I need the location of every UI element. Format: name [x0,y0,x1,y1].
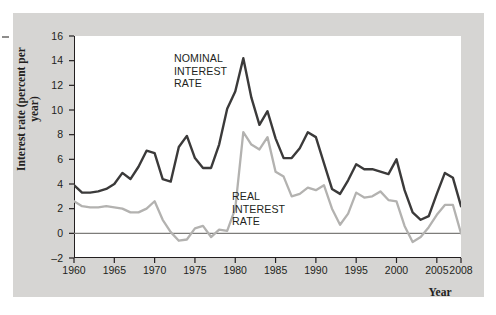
y-tick-label: 0 [37,228,63,238]
x-tick-label: 1985 [254,265,298,276]
y-tick-label: 12 [37,80,63,90]
y-tick-label: –2 [37,253,63,263]
y-tick-label: 8 [37,129,63,139]
chart-figure: Interest rate (percent per year) Year NO… [0,0,496,315]
x-tick-label: 1995 [334,265,378,276]
x-tick-label: 2008 [439,265,483,276]
y-tick-label: 4 [37,179,63,189]
annotation-real-interest-rate: REAL INTEREST RATE [232,190,285,228]
x-tick-label: 1975 [173,265,217,276]
x-tick-label: 1965 [92,265,136,276]
y-tick-label: 6 [37,154,63,164]
y-tick-label: 2 [37,203,63,213]
y-tick-label: 14 [37,55,63,65]
x-axis-title: Year [417,286,463,298]
y-tick-label: 10 [37,105,63,115]
registration-mark-icon [2,36,9,38]
x-tick-label: 1970 [133,265,177,276]
annotation-nominal-interest-rate: NOMINAL INTEREST RATE [174,52,227,90]
x-tick-label: 1960 [52,265,96,276]
x-tick-label: 1990 [294,265,338,276]
x-tick-label: 2000 [375,265,419,276]
x-tick-label: 1980 [213,265,257,276]
y-tick-label: 16 [37,31,63,41]
